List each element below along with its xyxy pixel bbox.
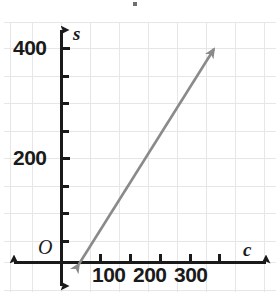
data-line-series — [79, 49, 214, 264]
x-axis-label: c — [243, 240, 251, 259]
x-tick-label-200: 200 — [133, 264, 167, 285]
x-tick-label-300: 300 — [174, 264, 208, 285]
y-tick-label-200: 200 — [13, 147, 47, 168]
y-axis-label: s — [73, 24, 80, 43]
image-artifact-speck — [133, 2, 137, 6]
coordinate-graph-figure: 400 200 100 200 300 s c O — [0, 0, 278, 296]
x-tick-label-100: 100 — [92, 264, 126, 285]
y-tick-label-400: 400 — [13, 37, 47, 58]
origin-label: O — [38, 237, 52, 257]
